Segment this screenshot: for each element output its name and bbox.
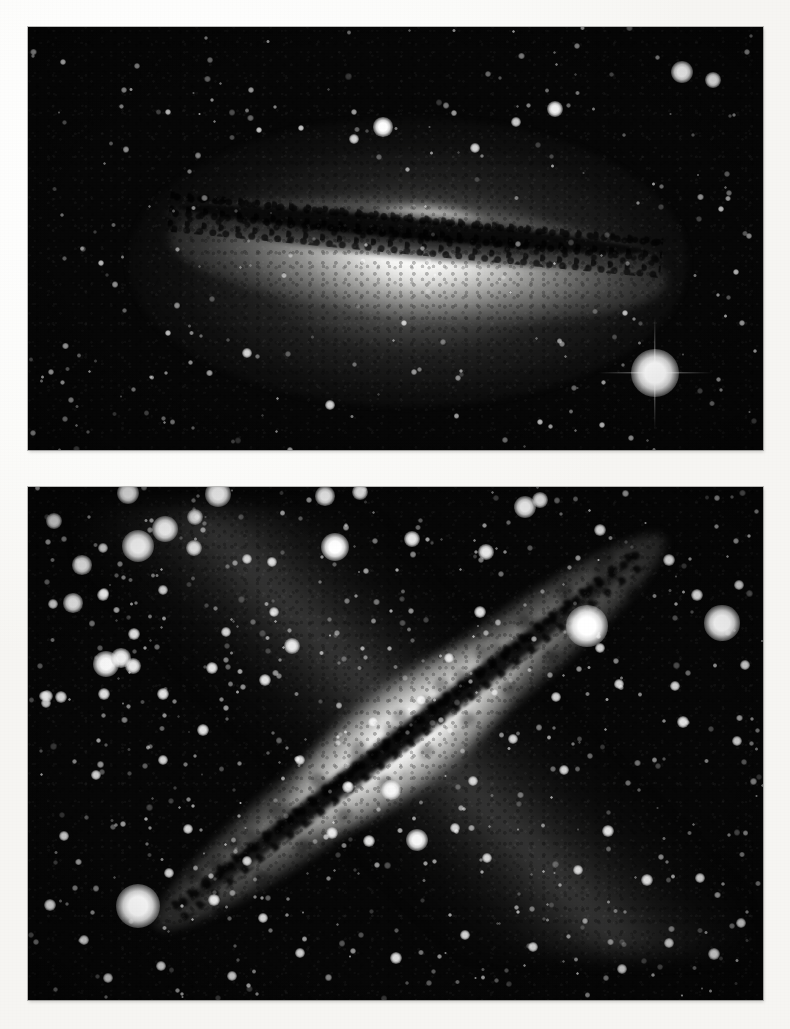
galaxy-plate-bottom xyxy=(28,487,763,1000)
figure-page xyxy=(0,0,790,1029)
galaxy-plate-top xyxy=(28,27,763,450)
